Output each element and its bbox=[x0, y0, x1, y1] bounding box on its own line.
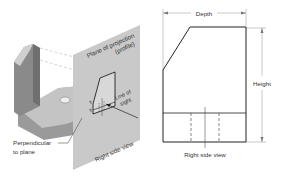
view-outline bbox=[163, 27, 246, 142]
caption: Right side view bbox=[184, 151, 226, 158]
isometric-object bbox=[14, 44, 80, 140]
projector-line bbox=[40, 48, 74, 57]
arrowhead-icon bbox=[261, 137, 264, 142]
depth-label: Depth bbox=[196, 10, 213, 17]
object-upright-face bbox=[33, 44, 40, 106]
projector-line bbox=[40, 60, 74, 70]
arrowhead-icon bbox=[241, 12, 246, 15]
object-hole bbox=[60, 97, 70, 103]
arrowhead-icon bbox=[163, 12, 168, 15]
perpendicular-label-2: to plane bbox=[13, 148, 36, 155]
height-label: Height bbox=[253, 80, 271, 87]
perpendicular-label-1: Perpendicular bbox=[13, 139, 51, 146]
orthographic-projection-diagram: Plane of projection (profile) Right side… bbox=[0, 0, 281, 189]
arrowhead-icon bbox=[261, 28, 264, 33]
right-side-orthographic: Depth Height Right side view bbox=[163, 9, 271, 158]
